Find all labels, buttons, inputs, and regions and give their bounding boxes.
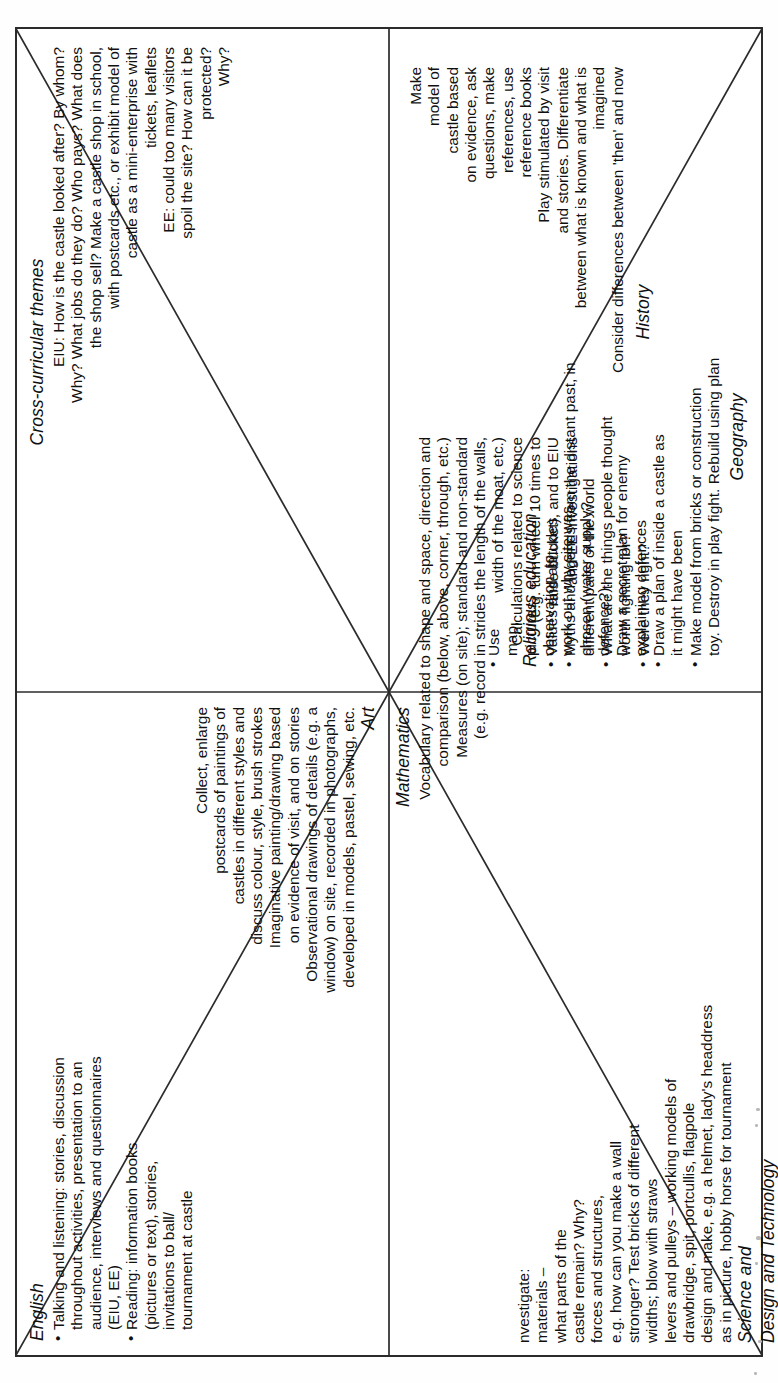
cell-english: English Talking and listening: stories, …	[27, 1011, 197, 1341]
list-item: Talking and listening: stories, discussi…	[50, 1011, 123, 1341]
cell-art-title: Art	[358, 707, 379, 1207]
list-item: Observational drawings of details (e.g. …	[303, 707, 358, 1207]
cell-science-and-design-technology: nvestigate: materials – what parts of th…	[515, 783, 778, 1343]
cell-cross-curricular-themes: Cross-curricular themes EIU: How is the …	[27, 47, 233, 657]
list-item: Make model from bricks or construction t…	[687, 207, 724, 667]
list-item: Make model of castle based on evidence, …	[407, 67, 535, 557]
cell-history: Make model of castle based on evidence, …	[407, 67, 656, 557]
cell-english-bullets: Talking and listening: stories, discussi…	[50, 1011, 197, 1341]
scan-artifact	[756, 1108, 760, 1111]
scan-artifact	[758, 1340, 762, 1343]
scan-artifact	[755, 1124, 758, 1127]
cell-cross-curricular-themes-title: Cross-curricular themes	[27, 47, 48, 657]
scan-artifact	[754, 1372, 757, 1375]
cell-science-and-design-technology-body: nvestigate: materials – what parts of th…	[515, 783, 735, 1343]
cell-science-and-design-technology-title-line1: Science and	[735, 783, 756, 1343]
cell-geography-title: Geography	[727, 207, 748, 667]
cell-art-bullets: Collect, enlarge postcards of paintings …	[193, 707, 358, 1207]
cell-english-title: English	[27, 1011, 48, 1341]
curriculum-web-diagram: English Talking and listening: stories, …	[15, 27, 763, 1357]
list-item: Play stimulated by visit and stories. Di…	[535, 67, 608, 557]
cell-cross-curricular-themes-bullets: EIU: How is the castle looked after? By …	[50, 47, 233, 657]
cell-science-and-design-technology-title-line2: Design and Technology	[758, 783, 778, 1343]
cell-art: Collect, enlarge postcards of paintings …	[193, 707, 381, 1207]
cell-history-bullets: Make model of castle based on evidence, …	[407, 67, 627, 557]
cell-history-title: History	[633, 67, 654, 557]
scan-artifact	[755, 1262, 758, 1265]
list-item: Imaginative painting/drawing based on ev…	[266, 707, 303, 1207]
scan-artifact	[756, 1236, 761, 1240]
list-item: Reading: information books (pictures or …	[123, 1011, 196, 1341]
list-item: Collect, enlarge postcards of paintings …	[193, 707, 266, 1207]
scanned-page: English Talking and listening: stories, …	[0, 0, 778, 1383]
list-item: EIU: How is the castle looked after? By …	[50, 47, 160, 657]
list-item: EE: could too many visitors spoil the si…	[160, 47, 233, 657]
list-item: Consider differences between 'then' and …	[609, 67, 627, 557]
